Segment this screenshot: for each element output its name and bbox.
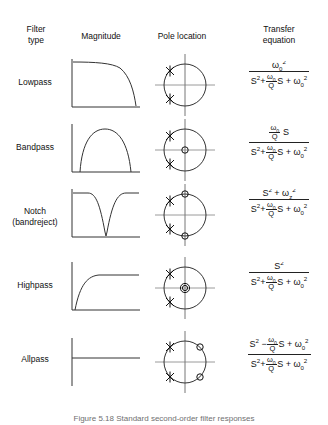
pole-marker [166,66,174,77]
column-header-transfer-line2: equation [236,35,322,46]
row-label-lowpass-line1: Lowpass [4,77,66,88]
magnitude-plot-lowpass [72,59,140,107]
pole-marker [166,159,174,170]
transfer-equation-highpass: S2 S2+ω0QS + ω02 [232,262,326,312]
table-row-lowpass: Lowpass ω02 [4,54,326,116]
table-row-notch: Notch (bandreject) [2,184,326,246]
magnitude-plot-allpass [72,338,140,386]
pole-marker [166,196,174,207]
equation-numerator-notch: S2 + ωz2 [249,189,310,199]
column-header-filter-type-line1: Filter [8,24,64,35]
equation-denominator-bandpass: S2+ω0QS + ω02 [249,142,310,161]
row-label-bandpass-line1: Bandpass [4,142,66,153]
row-label-highpass-line1: Highpass [4,280,66,291]
filter-response-figure: Filter type Magnitude Pole location Tran… [0,0,328,425]
transfer-equation-lowpass: ω02 S2+ω0QS + ω02 [232,61,326,109]
magnitude-plot-highpass [72,262,140,310]
transfer-equation-bandpass: ω0Q S S2+ω0QS + ω02 [232,124,326,174]
equation-numerator-allpass: S2 −ω0QS + ω02 [248,336,311,354]
pole-zero-plot-bandpass [155,119,215,181]
equation-numerator-bandpass: ω0Q S [249,124,310,142]
table-row-highpass: Highpass S2 [4,257,326,319]
equation-denominator-notch: S2+ω0QS + ω02 [249,199,310,218]
column-header-pole-location: Pole location [146,31,218,47]
row-label-notch-line1: Notch [2,206,68,217]
magnitude-plot-notch [72,189,140,237]
pole-marker [166,224,174,235]
equation-denominator-allpass: S2+ω0QS + ω02 [248,354,311,373]
column-header-filter-type: Filter type [8,24,64,52]
pole-zero-plot-highpass [155,257,215,319]
row-label-allpass: Allpass [4,354,66,378]
pole-zero-plot-allpass [155,331,215,393]
pole-zero-plot-lowpass [155,54,215,116]
row-label-highpass: Highpass [4,280,66,304]
transfer-equation-allpass: S2 −ω0QS + ω02 S2+ω0QS + ω02 [232,336,326,388]
table-row-bandpass: Bandpass ω0Q S S2+ [4,119,326,181]
row-label-lowpass: Lowpass [4,77,66,101]
equation-numerator-lowpass: ω02 [249,61,310,71]
magnitude-plot-bandpass [72,124,140,172]
row-label-bandpass: Bandpass [4,142,66,166]
column-header-magnitude-label: Magnitude [68,31,134,42]
column-header-filter-type-line2: type [8,35,64,46]
pole-marker [166,269,174,280]
pole-zero-plot-notch [155,184,215,246]
pole-marker [166,131,174,142]
row-label-notch: Notch (bandreject) [2,206,68,234]
equation-denominator-lowpass: S2+ω0QS + ω02 [249,71,310,90]
pole-marker [166,297,174,308]
row-label-allpass-line1: Allpass [4,354,66,365]
pole-marker [166,94,174,105]
row-label-notch-line2: (bandreject) [2,217,68,228]
column-header-transfer-equation: Transfer equation [236,24,322,52]
equation-numerator-highpass: S2 [249,262,310,272]
equation-denominator-highpass: S2+ω0QS + ω02 [249,272,310,291]
table-row-allpass: Allpass S2 −ω0QS + ω0 [4,331,326,393]
column-header-magnitude: Magnitude [68,31,134,47]
column-header-pole-location-label: Pole location [146,31,218,42]
figure-caption: Figure 5.18 Standard second-order filter… [0,414,328,425]
column-header-transfer-line1: Transfer [236,24,322,35]
transfer-equation-notch: S2 + ωz2 S2+ω0QS + ω02 [232,189,326,239]
